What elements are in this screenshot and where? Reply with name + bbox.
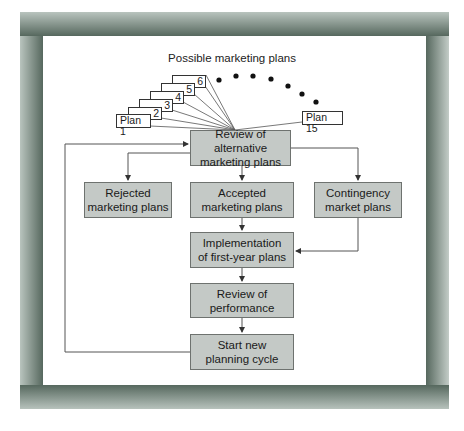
rejected-plans-box: Rejectedmarketing plans	[84, 182, 172, 218]
plan-1: Plan 1	[116, 114, 151, 128]
implementation-box: Implementationof first-year plans	[190, 232, 294, 268]
review-performance-box: Review ofperformance	[190, 283, 294, 318]
contingency-plans-box: Contingencymarket plans	[314, 182, 402, 218]
start-new-cycle-box: Start newplanning cycle	[190, 334, 294, 370]
ellipsis-dots	[216, 73, 318, 104]
accepted-plans-box: Acceptedmarketing plans	[190, 182, 294, 218]
review-alternative-plans-box: Review of alternativemarketing plans	[190, 130, 291, 166]
plan-15: Plan 15	[302, 111, 343, 125]
